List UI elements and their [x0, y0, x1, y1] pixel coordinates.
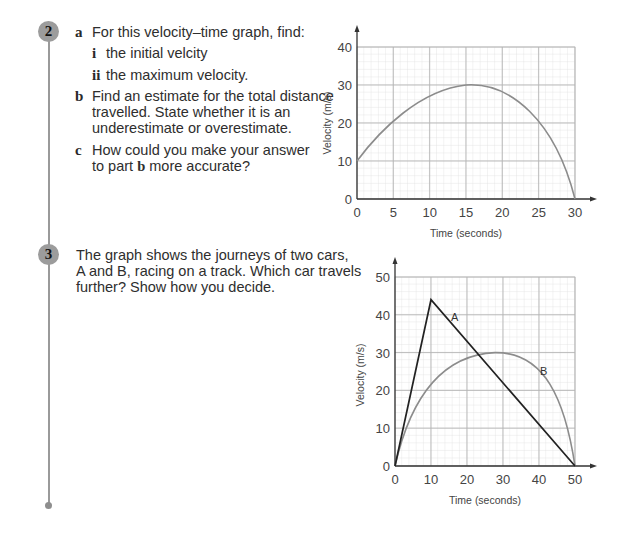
g2-xtick-20: 20: [460, 472, 474, 487]
g2-ytick-10: 10: [376, 421, 390, 436]
g1-xtick-0: 0: [353, 205, 360, 220]
g1-xlabel: Time (seconds): [430, 227, 502, 239]
g2-ytick-20: 20: [376, 383, 390, 398]
g1-ytick-0: 0: [345, 192, 352, 207]
charts-layer: 40 30 20 10 0 0 5 10 15 20 25 30 Time (s…: [0, 0, 621, 538]
g1-ytick-30: 30: [338, 78, 352, 93]
g2-ylabel: Velocity (m/s): [354, 343, 366, 406]
g2-xtick-50: 50: [568, 472, 582, 487]
series-a-label: A: [451, 311, 459, 323]
g2-ytick-40: 40: [376, 308, 390, 323]
g1-ytick-20: 20: [338, 116, 352, 131]
g1-xtick-15: 15: [459, 205, 473, 220]
g1-xtick-25: 25: [531, 205, 545, 220]
g2-ytick-30: 30: [376, 346, 390, 361]
g1-ytick-40: 40: [338, 40, 352, 55]
g2-xtick-40: 40: [532, 472, 546, 487]
g2-ytick-0: 0: [383, 459, 390, 474]
g1-xtick-30: 30: [568, 205, 582, 220]
g1-ytick-10: 10: [338, 154, 352, 169]
g2-xtick-10: 10: [424, 472, 438, 487]
g2-xtick-0: 0: [391, 472, 398, 487]
g2-ytick-50: 50: [376, 270, 390, 285]
series-b-label: B: [540, 365, 547, 377]
g1-xtick-20: 20: [495, 205, 509, 220]
velocity-time-graph-2: A B 50 40 30 20 10 0 0 10 20 30 40 50 Ti…: [354, 257, 597, 506]
velocity-time-graph-1: 40 30 20 10 0 0 5 10 15 20 25 30 Time (s…: [321, 25, 597, 239]
g1-xtick-5: 5: [390, 205, 397, 220]
g1-xtick-10: 10: [422, 205, 436, 220]
g2-xlabel: Time (seconds): [449, 494, 521, 506]
g1-ylabel: Velocity (m/s): [321, 91, 333, 154]
g2-xtick-30: 30: [496, 472, 510, 487]
